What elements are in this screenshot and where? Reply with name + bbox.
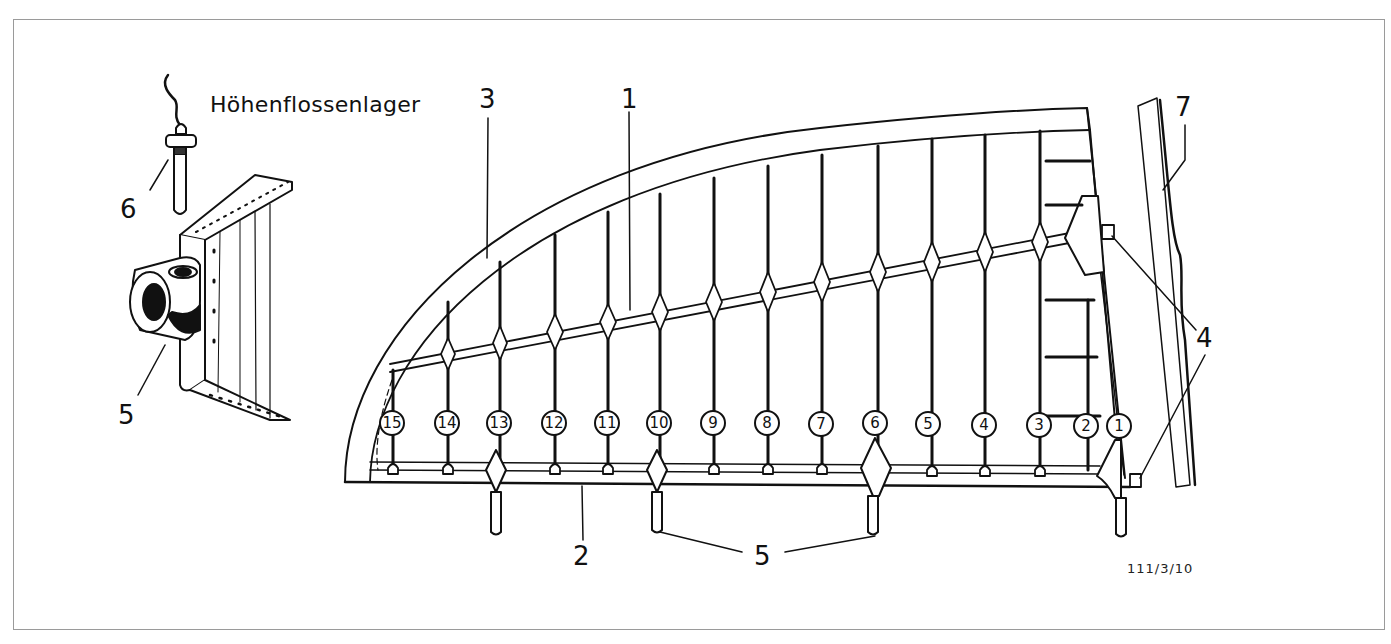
figure-id: 111/3/10 — [1127, 561, 1193, 576]
rib-number-15: 15 — [379, 410, 405, 436]
rib-number-5: 5 — [915, 411, 941, 437]
rib-number-7: 7 — [808, 411, 834, 437]
rib-number-10: 10 — [646, 410, 672, 436]
rib-number-8: 8 — [754, 410, 780, 436]
rib-number-11: 11 — [594, 410, 620, 436]
rib-number-3: 3 — [1026, 412, 1052, 438]
rib-number-14: 14 — [434, 410, 460, 436]
callout-6: 6 — [120, 196, 137, 222]
rib-number-13: 13 — [486, 410, 512, 436]
callout-5-detail: 5 — [118, 402, 135, 428]
stabilizer-frame — [345, 108, 1130, 487]
rib-number-6: 6 — [862, 410, 888, 436]
rib-number-4: 4 — [971, 412, 997, 438]
figure-title: Höhenflossenlager — [210, 92, 420, 117]
callout-3: 3 — [479, 86, 496, 112]
callout-7: 7 — [1175, 94, 1192, 120]
bearing-detail — [130, 75, 292, 420]
bolt-icon — [166, 124, 196, 214]
callout-2: 2 — [573, 543, 590, 569]
rib-number-9: 9 — [700, 410, 726, 436]
rib-number-2: 2 — [1073, 413, 1099, 439]
rib-number-12: 12 — [541, 410, 567, 436]
callout-4: 4 — [1196, 325, 1213, 351]
bearing-block-icon — [130, 257, 200, 340]
callout-5-main: 5 — [754, 543, 771, 569]
rib-number-1: 1 — [1106, 413, 1132, 439]
callout-1: 1 — [621, 86, 638, 112]
